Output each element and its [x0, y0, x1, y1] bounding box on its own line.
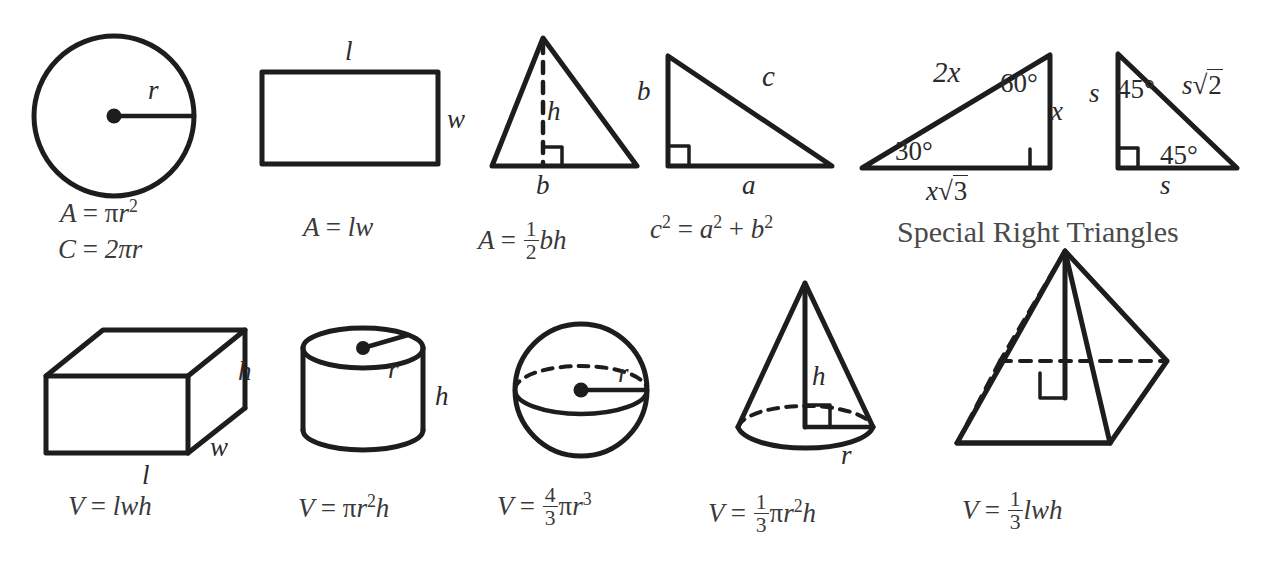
prism-width-label: w: [210, 434, 228, 461]
pythagoras-a-exponent: 2: [713, 212, 722, 232]
sphere-volume-eq: =: [520, 491, 535, 521]
cylinder-volume-lhs: V: [298, 493, 314, 523]
rectangle-area-lhs: A: [303, 212, 319, 242]
rectangle-length-label: l: [345, 38, 353, 65]
circle-area-var: r: [118, 198, 129, 228]
pythagorean-theorem-formula: c2 = a2 + b2: [650, 214, 773, 243]
cylinder-volume-r-exponent: 2: [367, 491, 376, 511]
triangle-45-45-90-leg-left-label: s: [1089, 80, 1100, 107]
pythagoras-plus: +: [729, 214, 744, 244]
cone-volume-eq: =: [731, 498, 746, 528]
triangle-45-45-90-angle-top-label: 45°: [1117, 76, 1155, 103]
pyramid-volume-lhs: V: [962, 495, 978, 525]
hypotenuse-variable: s: [1182, 70, 1193, 100]
cone-volume-h: h: [803, 498, 817, 528]
sphere-volume-r-exponent: 3: [583, 489, 592, 509]
cylinder-volume-eq: =: [321, 493, 336, 523]
triangle-figure: [484, 30, 649, 175]
pyramid-volume-numerator: 1: [1008, 488, 1023, 510]
triangle-45-45-90-leg-bottom-label: s: [1160, 172, 1171, 199]
prism-length-label: l: [142, 462, 150, 489]
circle-area-pi: π: [105, 198, 119, 228]
triangle-45-45-90-hypotenuse-label: s√2: [1182, 72, 1223, 99]
pythagoras-c: c: [650, 214, 662, 244]
circle-circ-rhs: 2πr: [105, 234, 143, 264]
pythagoras-b-exponent: 2: [764, 212, 773, 232]
triangle-area-lhs: A: [478, 225, 494, 255]
cylinder-figure: [295, 322, 455, 467]
cone-height-label: h: [812, 363, 826, 390]
rectangle-area-formula: A = lw: [303, 214, 373, 241]
triangle-30-60-90-long-leg-label: x√3: [926, 178, 968, 205]
geometry-formula-sheet: r A = πr2 C = 2πr l w A = lw h b A = 1 2: [0, 0, 1264, 563]
cylinder-volume-formula: V = πr2h: [298, 493, 389, 522]
radical-sign-icon: √: [1193, 70, 1208, 100]
circle-figure: [22, 28, 212, 208]
pyramid-volume-rhs: lwh: [1024, 495, 1063, 525]
sphere-volume-lhs: V: [497, 491, 513, 521]
sphere-volume-denominator: 3: [543, 506, 558, 529]
sphere-volume-r: r: [572, 491, 583, 521]
cylinder-volume-r: r: [356, 493, 367, 523]
circle-circ-eq: =: [83, 234, 98, 264]
cylinder-height-label: h: [435, 383, 449, 410]
prism-volume-rhs: lwh: [113, 491, 152, 521]
cone-volume-fraction: 1 3: [754, 491, 769, 536]
triangle-45-45-90-angle-bottom-label: 45°: [1160, 142, 1198, 169]
long-leg-radicand: 3: [953, 175, 969, 206]
rectangle-area-rhs: lw: [348, 212, 374, 242]
cylinder-radius-label: r: [388, 356, 399, 383]
rectangle-figure: [258, 68, 448, 173]
pyramid-volume-eq: =: [985, 495, 1000, 525]
prism-volume-eq: =: [91, 491, 106, 521]
triangle-30-60-90-short-leg-label: x: [1051, 98, 1063, 125]
triangle-30-60-90-hypotenuse-label: 2x: [933, 58, 960, 87]
pyramid-figure: [945, 243, 1185, 458]
pythagoras-eq: =: [678, 214, 693, 244]
cone-volume-r-exponent: 2: [794, 496, 803, 516]
sphere-radius-label: r: [618, 360, 629, 387]
right-triangle-leg-b-label: b: [637, 78, 651, 105]
triangle-height-label: h: [547, 98, 561, 125]
hypotenuse-radicand: 2: [1207, 69, 1223, 100]
pythagoras-b: b: [751, 214, 765, 244]
triangle-area-numerator: 1: [524, 218, 539, 240]
triangle-30-60-90-angle-30-label: 30°: [895, 138, 933, 165]
cone-radius-label: r: [841, 442, 852, 469]
cone-volume-numerator: 1: [754, 491, 769, 513]
sphere-volume-fraction: 4 3: [543, 484, 558, 529]
triangle-base-label: b: [536, 172, 550, 199]
circle-circ-lhs: C: [58, 234, 76, 264]
cone-volume-pi: π: [770, 498, 784, 528]
cone-volume-formula: V = 1 3 πr2h: [708, 493, 816, 538]
pyramid-volume-fraction: 1 3: [1008, 488, 1023, 533]
sphere-volume-formula: V = 4 3 πr3: [497, 486, 592, 531]
circle-area-lhs: A: [60, 198, 76, 228]
triangle-area-formula: A = 1 2 bh: [478, 220, 567, 265]
pythagoras-a: a: [700, 214, 714, 244]
cone-volume-denominator: 3: [754, 513, 769, 536]
cylinder-volume-pi: π: [343, 493, 357, 523]
rectangle-width-label: w: [447, 106, 465, 133]
right-triangle-figure: [660, 50, 840, 175]
cone-figure: [710, 275, 900, 460]
pyramid-volume-denominator: 3: [1008, 510, 1023, 533]
radical-sign-icon: √: [938, 176, 953, 206]
pythagoras-c-exponent: 2: [662, 212, 671, 232]
hypotenuse-radical-group: √2: [1193, 72, 1223, 99]
right-triangle-leg-a-label: a: [742, 172, 756, 199]
prism-height-label: h: [238, 358, 252, 385]
long-leg-variable: x: [926, 176, 938, 206]
triangle-area-denominator: 2: [524, 240, 539, 263]
pyramid-volume-formula: V = 1 3 lwh: [962, 490, 1063, 535]
cone-volume-lhs: V: [708, 498, 724, 528]
rectangle-area-eq: =: [326, 212, 341, 242]
circle-radius-label: r: [148, 77, 159, 104]
triangle-30-60-90-angle-60-label: 60°: [1000, 70, 1038, 97]
triangle-area-fraction: 1 2: [524, 218, 539, 263]
sphere-figure: [495, 318, 670, 468]
circle-area-exponent: 2: [129, 196, 138, 216]
sphere-volume-numerator: 4: [543, 484, 558, 506]
sphere-volume-pi: π: [559, 491, 573, 521]
circle-area-eq: =: [83, 198, 98, 228]
